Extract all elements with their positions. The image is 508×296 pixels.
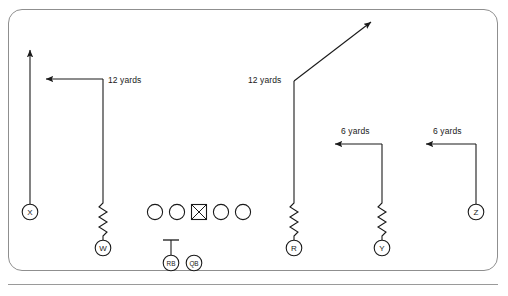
offensive-line — [147, 204, 250, 219]
route-W — [46, 79, 107, 240]
lineman-LG — [169, 204, 184, 219]
player-R: R — [286, 240, 302, 256]
player-label-R: R — [291, 244, 297, 253]
player-RB: RB — [163, 255, 179, 271]
label-w-depth: 12 yards — [108, 76, 141, 85]
player-X: X — [22, 204, 38, 220]
player-label-QB: QB — [189, 260, 198, 268]
route-Y — [335, 144, 386, 240]
lineman-RG — [213, 204, 228, 219]
route-Z — [426, 144, 476, 204]
label-r-depth: 12 yards — [248, 76, 281, 85]
play-diagram: X W R Y Z RB Q — [0, 0, 508, 296]
label-y-depth: 6 yards — [341, 127, 370, 136]
lineman-RT — [235, 204, 250, 219]
player-Y: Y — [374, 240, 390, 256]
player-W: W — [95, 240, 111, 256]
label-z-depth: 6 yards — [433, 127, 462, 136]
player-label-RB: RB — [167, 260, 176, 267]
player-QB: QB — [186, 255, 202, 271]
routes-layer: X W R Y Z RB Q — [0, 0, 508, 296]
player-Z: Z — [468, 204, 484, 220]
lineman-C — [192, 205, 207, 220]
player-label-X: X — [27, 208, 33, 217]
player-label-Z: Z — [474, 208, 479, 217]
lineman-LT — [147, 204, 162, 219]
player-label-Y: Y — [379, 244, 385, 253]
route-RB-block — [163, 240, 179, 255]
player-label-W: W — [99, 244, 107, 253]
players-layer: X W R Y Z RB Q — [22, 204, 484, 271]
